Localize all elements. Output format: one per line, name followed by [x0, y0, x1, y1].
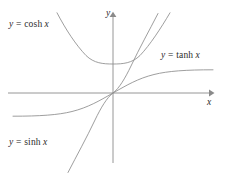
y-axis-arrowhead [110, 12, 117, 17]
label-cosh-argument: x [44, 19, 48, 29]
curve-label-sinh: y = sinh x [9, 137, 47, 147]
curve-label-tanh: y = tanh x [161, 50, 200, 60]
label-tanh-equals: = [165, 50, 176, 60]
curve-cosh [57, 13, 170, 64]
label-sinh-function: sinh [24, 137, 41, 147]
label-sinh-equals: = [13, 137, 24, 147]
x-axis-label: x [207, 97, 211, 107]
curve-label-cosh: y = cosh x [9, 19, 49, 29]
label-cosh-equals: = [13, 19, 24, 29]
label-tanh-argument: x [195, 50, 199, 60]
label-tanh-function: tanh [176, 50, 193, 60]
hyperbolic-functions-figure: y = cosh x y = tanh x y = sinh x y x [0, 0, 225, 175]
label-sinh-argument: x [43, 137, 47, 147]
y-axis-label: y [106, 8, 110, 18]
x-axis-arrowhead [209, 90, 215, 97]
label-cosh-function: cosh [24, 19, 42, 29]
